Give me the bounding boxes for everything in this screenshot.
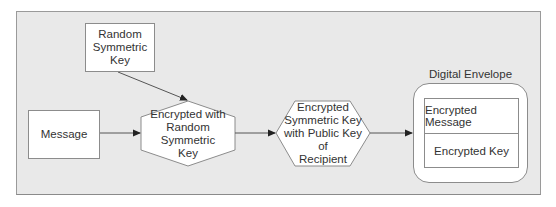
node-random-symmetric-key: Random Symmetric Key (85, 23, 155, 72)
node-random-symmetric-key-line: Key (93, 54, 147, 67)
envelope-contents: Encrypted Message Encrypted Key (424, 98, 519, 168)
node-random-symmetric-key-line: Random (93, 28, 147, 41)
node-random-symmetric-key-line: Symmetric (93, 41, 147, 54)
node-encrypt-message-line: Key (141, 147, 235, 160)
node-encrypt-key-line: with Public Key of (280, 127, 366, 153)
node-encrypt-key-text: Encrypted Symmetric Key with Public Key … (280, 104, 366, 162)
node-encrypt-message-line: Encrypted with (141, 108, 235, 121)
envelope-row-encrypted-key: Encrypted Key (425, 133, 518, 168)
node-encrypt-message-text: Encrypted with Random Symmetric Key (141, 117, 235, 151)
envelope-row-encrypted-message: Encrypted Message (425, 99, 518, 133)
node-encrypt-key-line: Symmetric Key (280, 114, 366, 127)
node-encrypt-key-line: Recipient (280, 153, 366, 166)
arrow-key-to-encrypt (118, 72, 187, 100)
node-encrypt-message-line: Random Symmetric (141, 121, 235, 147)
node-digital-envelope: Encrypted Message Encrypted Key (413, 83, 528, 183)
envelope-title: Digital Envelope (413, 68, 528, 80)
node-encrypt-key-line: Encrypted (280, 101, 366, 114)
node-message: Message (28, 110, 100, 159)
node-message-label: Message (41, 128, 88, 141)
